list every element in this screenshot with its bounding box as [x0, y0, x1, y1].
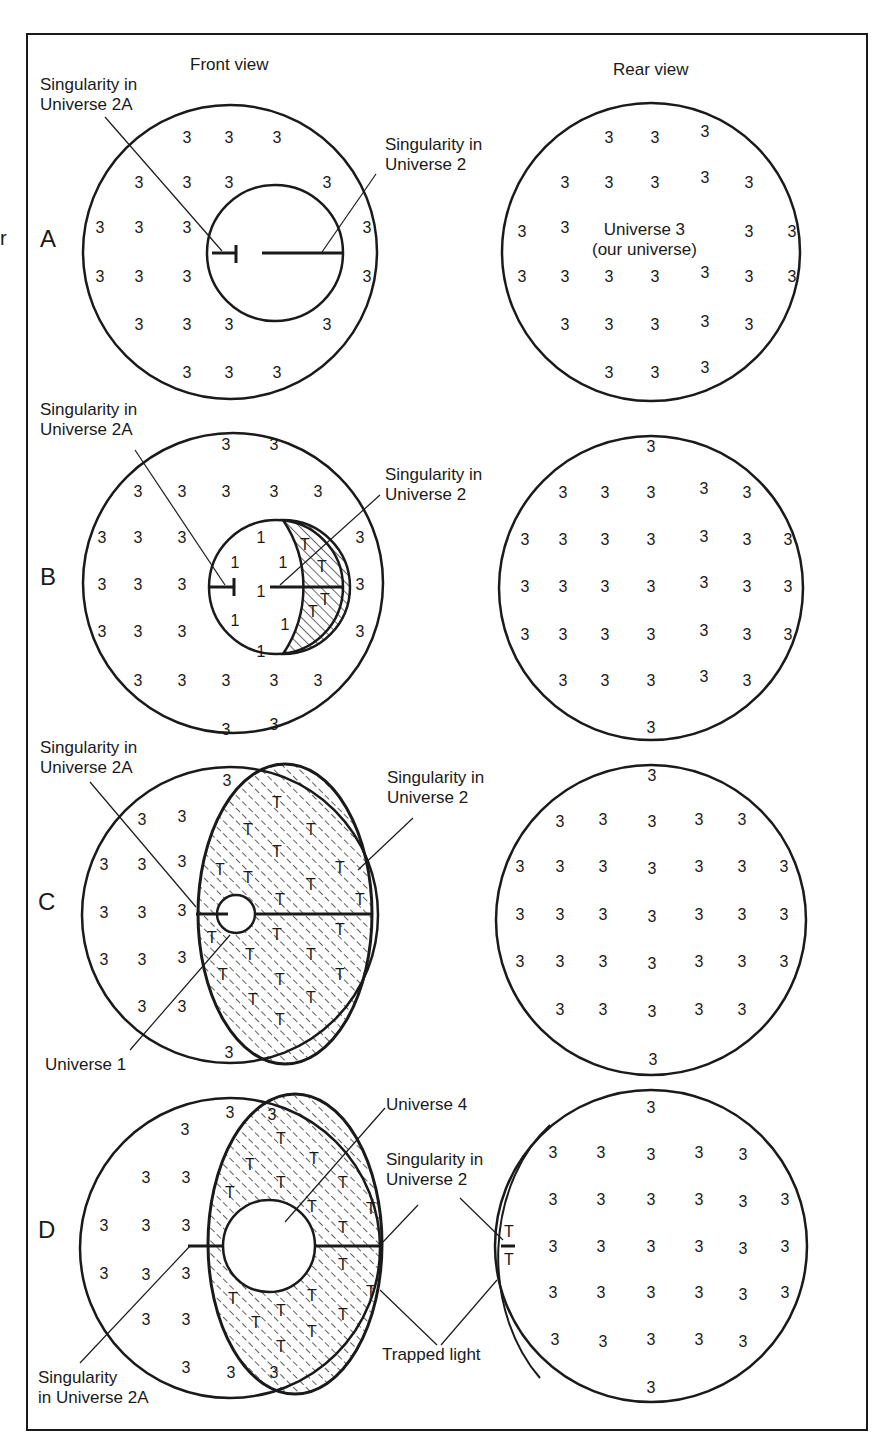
- glyph-universe-3-rear: 3: [647, 438, 656, 455]
- glyph-universe-3-rear: 3: [647, 626, 656, 643]
- leader-trapped-rear: [441, 1280, 497, 1345]
- leader-2-d: [383, 1205, 418, 1242]
- glyph-universe-3-rear: 3: [701, 264, 710, 281]
- glyph-universe-3: 3: [183, 174, 192, 191]
- leader-trapped-front: [380, 1290, 437, 1345]
- glyph-universe-3: 3: [356, 623, 365, 640]
- glyph-universe-3: 3: [134, 576, 143, 593]
- glyph-universe-3: 3: [135, 219, 144, 236]
- glyph-trapped-light: T: [504, 1223, 514, 1240]
- glyph-universe-3: 3: [178, 529, 187, 546]
- glyph-universe-3: 3: [134, 483, 143, 500]
- glyph-universe-3: 3: [182, 1265, 191, 1282]
- glyph-universe-3: 3: [100, 856, 109, 873]
- glyph-universe-3: 3: [178, 808, 187, 825]
- glyph-universe-3-rear: 3: [648, 813, 657, 830]
- glyph-universe-3-rear: 3: [647, 531, 656, 548]
- glyph-universe-3-rear: 3: [597, 1191, 606, 1208]
- glyph-universe-3-rear: 3: [648, 1003, 657, 1020]
- glyph-universe-3-rear: 3: [647, 1191, 656, 1208]
- glyph-universe-3-rear: 3: [647, 1284, 656, 1301]
- glyph-universe-3-rear: 3: [781, 1284, 790, 1301]
- glyph-universe-3: 3: [142, 1311, 151, 1328]
- glyph-universe-3-rear: 3: [743, 578, 752, 595]
- glyph-universe-3-rear: 3: [647, 1331, 656, 1348]
- glyph-universe-3-rear: 3: [695, 1331, 704, 1348]
- glyph-universe-3: 3: [138, 904, 147, 921]
- glyph-universe-3-rear: 3: [605, 129, 614, 146]
- glyph-universe-3: 3: [178, 672, 187, 689]
- glyph-universe-3: 3: [142, 1266, 151, 1283]
- glyph-universe-3-rear: 3: [551, 1331, 560, 1348]
- glyph-universe-3-rear: 3: [649, 1051, 658, 1068]
- glyph-universe-3: 3: [100, 951, 109, 968]
- glyph-universe-3: 3: [222, 672, 231, 689]
- glyph-universe-3-rear: 3: [743, 672, 752, 689]
- glyph-universe-3-rear: 3: [599, 1333, 608, 1350]
- glyph-universe-1: 1: [281, 616, 290, 633]
- glyph-universe-3-rear: 3: [605, 316, 614, 333]
- glyph-universe-3-rear: 3: [647, 672, 656, 689]
- glyph-universe-3: 3: [183, 268, 192, 285]
- glyph-universe-3-rear: 3: [780, 906, 789, 923]
- glyph-universe-3-rear: 3: [745, 223, 754, 240]
- glyph-universe-3-rear: 3: [701, 359, 710, 376]
- glyph-universe-3-rear: 3: [695, 811, 704, 828]
- glyph-universe-3-rear: 3: [647, 719, 656, 736]
- glyph-universe-3-rear: 3: [781, 1191, 790, 1208]
- glyph-universe-3-rear: 3: [695, 906, 704, 923]
- glyph-universe-3-rear: 3: [651, 268, 660, 285]
- glyph-universe-3: 3: [134, 672, 143, 689]
- glyph-universe-3: 3: [270, 672, 279, 689]
- glyph-universe-3: 3: [134, 623, 143, 640]
- glyph-universe-3: 3: [273, 129, 282, 146]
- glyph-universe-3: 3: [227, 1364, 236, 1381]
- glyph-universe-3: 3: [182, 1217, 191, 1234]
- glyph-universe-3-rear: 3: [651, 364, 660, 381]
- glyph-universe-3-rear: 3: [695, 1001, 704, 1018]
- glyph-universe-3-rear: 3: [780, 953, 789, 970]
- glyph-universe-3-rear: 3: [700, 668, 709, 685]
- glyph-universe-3-rear: 3: [559, 484, 568, 501]
- glyph-universe-3-rear: 3: [561, 174, 570, 191]
- glyph-universe-3-rear: 3: [648, 955, 657, 972]
- glyph-universe-3-rear: 3: [695, 1144, 704, 1161]
- glyph-universe-3-rear: 3: [701, 313, 710, 330]
- glyph-universe-3: 3: [314, 672, 323, 689]
- glyph-universe-3-rear: 3: [601, 672, 610, 689]
- glyph-universe-3: 3: [323, 174, 332, 191]
- glyph-universe-3: 3: [356, 576, 365, 593]
- glyph-universe-3-rear: 3: [521, 626, 530, 643]
- glyph-universe-3-rear: 3: [700, 574, 709, 591]
- glyph-universe-3: 3: [96, 219, 105, 236]
- glyph-universe-3-rear: 3: [601, 626, 610, 643]
- glyph-universe-3: 3: [183, 316, 192, 333]
- glyph-universe-3-rear: 3: [700, 480, 709, 497]
- glyph-universe-3-rear: 3: [599, 1001, 608, 1018]
- glyph-universe-3: 3: [138, 856, 147, 873]
- glyph-universe-3: 3: [178, 949, 187, 966]
- glyph-universe-3: 3: [182, 1169, 191, 1186]
- glyph-universe-3-rear: 3: [738, 858, 747, 875]
- glyph-universe-3: 3: [183, 129, 192, 146]
- glyph-universe-3-rear: 3: [556, 906, 565, 923]
- glyph-universe-3-rear: 3: [745, 268, 754, 285]
- glyph-universe-3: 3: [182, 1311, 191, 1328]
- glyph-universe-1: 1: [231, 554, 240, 571]
- glyph-universe-3-rear: 3: [518, 268, 527, 285]
- glyph-universe-3: 3: [100, 904, 109, 921]
- glyph-universe-3-rear: 3: [788, 268, 797, 285]
- glyph-universe-3-rear: 3: [597, 1144, 606, 1161]
- glyph-universe-3-rear: 3: [549, 1191, 558, 1208]
- glyph-universe-3-rear: 3: [605, 174, 614, 191]
- glyph-universe-3-rear: 3: [599, 858, 608, 875]
- glyph-universe-3-rear: 3: [651, 129, 660, 146]
- glyph-universe-3-rear: 3: [516, 953, 525, 970]
- glyph-universe-3-rear: 3: [559, 626, 568, 643]
- glyph-universe-3: 3: [270, 483, 279, 500]
- glyph-universe-3-rear: 3: [647, 1238, 656, 1255]
- glyph-universe-3: 3: [138, 951, 147, 968]
- glyph-universe-3-rear: 3: [561, 316, 570, 333]
- glyph-universe-3: 3: [98, 623, 107, 640]
- glyph-universe-3-rear: 3: [599, 906, 608, 923]
